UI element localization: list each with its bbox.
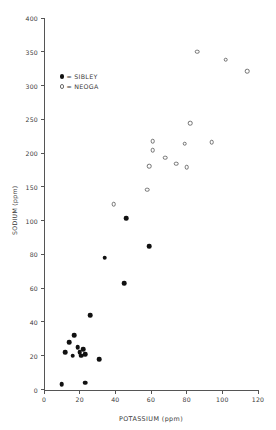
- y-axis-line: [44, 18, 45, 390]
- data-point-neoga: [209, 140, 214, 145]
- y-axis-label: SODIUM (ppm): [11, 185, 18, 235]
- y-tick-label: 60: [16, 285, 38, 292]
- y-tick-mark: [41, 321, 45, 322]
- data-point-sibley: [70, 353, 75, 358]
- y-tick-mark: [41, 254, 45, 255]
- data-point-sibley: [124, 216, 129, 221]
- y-tick-mark: [41, 51, 45, 52]
- x-tick-mark: [115, 390, 116, 394]
- data-point-sibley: [81, 347, 86, 352]
- data-point-sibley: [122, 281, 127, 286]
- x-tick-label: 0: [42, 396, 46, 403]
- data-point-sibley: [83, 352, 88, 357]
- data-point-neoga: [147, 164, 152, 169]
- data-point-sibley: [97, 357, 102, 362]
- data-point-neoga: [150, 139, 155, 144]
- y-tick-mark: [41, 288, 45, 289]
- y-tick-mark: [41, 153, 45, 154]
- data-point-neoga: [174, 162, 179, 167]
- y-tick-label: 100: [16, 217, 38, 224]
- y-tick-mark: [41, 186, 45, 187]
- x-tick-label: 20: [76, 396, 84, 403]
- y-tick-label: 300: [16, 82, 38, 89]
- x-tick-mark: [44, 390, 45, 394]
- legend-label-sibley: = SIBLEY: [66, 73, 97, 80]
- y-tick-mark: [41, 119, 45, 120]
- y-tick-label: 80: [16, 251, 38, 258]
- y-tick-label: 40: [16, 318, 38, 325]
- x-tick-label: 120: [252, 396, 264, 403]
- data-point-neoga: [184, 165, 189, 170]
- data-point-neoga: [163, 156, 168, 161]
- filled-circle-icon: [60, 74, 64, 78]
- y-tick-label: 250: [16, 116, 38, 123]
- data-point-neoga: [245, 69, 250, 74]
- y-tick-mark: [41, 220, 45, 221]
- x-tick-mark: [79, 390, 80, 394]
- data-point-sibley: [102, 255, 107, 260]
- x-tick-label: 40: [111, 396, 119, 403]
- x-tick-mark: [151, 390, 152, 394]
- x-tick-label: 60: [147, 396, 155, 403]
- x-tick-mark: [222, 390, 223, 394]
- x-tick-label: 80: [183, 396, 191, 403]
- data-point-sibley: [147, 244, 152, 249]
- data-point-sibley: [83, 380, 88, 385]
- legend-item-neoga: = NEOGA: [60, 83, 99, 90]
- data-point-sibley: [72, 333, 77, 338]
- data-point-neoga: [183, 141, 188, 146]
- data-point-neoga: [224, 58, 229, 63]
- y-tick-mark: [41, 85, 45, 86]
- data-point-sibley: [88, 313, 93, 318]
- data-point-neoga: [195, 49, 200, 54]
- y-tick-label: 0: [16, 386, 38, 393]
- legend-item-sibley: = SIBLEY: [60, 73, 98, 80]
- y-tick-label: 350: [16, 48, 38, 55]
- y-tick-label: 200: [16, 150, 38, 157]
- data-point-sibley: [76, 345, 81, 350]
- data-point-neoga: [145, 187, 150, 192]
- y-tick-mark: [41, 18, 45, 19]
- x-axis-label: POTASSIUM (ppm): [119, 415, 183, 423]
- y-tick-mark: [41, 355, 45, 356]
- data-point-neoga: [150, 148, 155, 153]
- y-tick-label: 20: [16, 352, 38, 359]
- y-tick-label: 400: [16, 15, 38, 22]
- y-tick-label: 150: [16, 183, 38, 190]
- scatter-plot: 020406080100150200250300350400 020406080…: [0, 0, 276, 430]
- x-tick-mark: [258, 390, 259, 394]
- data-point-neoga: [188, 121, 193, 126]
- open-circle-icon: [60, 84, 64, 88]
- data-point-sibley: [67, 340, 72, 345]
- x-tick-mark: [186, 390, 187, 394]
- x-tick-label: 100: [216, 396, 228, 403]
- legend-label-neoga: = NEOGA: [66, 83, 98, 90]
- data-point-neoga: [111, 202, 116, 207]
- data-point-sibley: [60, 382, 65, 387]
- data-point-sibley: [63, 350, 68, 355]
